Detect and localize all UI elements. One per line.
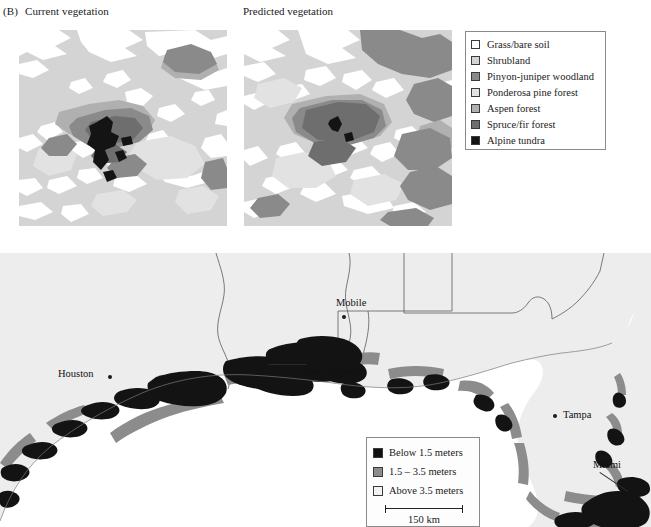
legend-swatch-icon xyxy=(471,120,480,129)
legend-item-alpine-tundra: Alpine tundra xyxy=(471,132,605,148)
city-dot-mobile xyxy=(342,315,346,319)
scale-bar-group: 150 km xyxy=(373,505,475,525)
legend-item-shrubland: Shrubland xyxy=(471,52,605,68)
legend-label: Below 1.5 meters xyxy=(389,447,463,458)
legend-item-1-5-to-3-5-meters: 1.5 – 3.5 meters xyxy=(373,462,479,481)
legend-swatch-icon xyxy=(471,56,480,65)
leader-line-new-orleans xyxy=(268,364,306,365)
gulf-coast-sea-level-map xyxy=(0,253,651,527)
legend-label: 1.5 – 3.5 meters xyxy=(389,466,456,477)
legend-item-above-3-5-meters: Above 3.5 meters xyxy=(373,481,479,500)
legend-swatch-icon xyxy=(373,486,383,496)
vegetation-legend: Grass/bare soil Shrubland Pinyon-juniper… xyxy=(465,31,606,150)
legend-item-pinyon-juniper-woodland: Pinyon-juniper woodland xyxy=(471,68,605,84)
city-dot-tampa xyxy=(553,414,557,418)
city-label-miami: Miami xyxy=(593,459,621,470)
scale-bar-icon xyxy=(385,505,463,513)
predicted-vegetation-map xyxy=(244,30,452,226)
legend-swatch-icon xyxy=(471,88,480,97)
legend-swatch-icon xyxy=(471,72,480,81)
legend-swatch-icon xyxy=(471,40,480,49)
legend-item-aspen-forest: Aspen forest xyxy=(471,100,605,116)
legend-label: Ponderosa pine forest xyxy=(487,87,578,98)
legend-item-grass-bare-soil: Grass/bare soil xyxy=(471,36,605,52)
gulf-coast-vector xyxy=(0,253,651,527)
scale-bar-label: 150 km xyxy=(373,514,475,525)
city-label-new-orleans: New Orleans xyxy=(305,366,360,377)
panel-b-tag: (B) xyxy=(3,5,18,17)
city-label-houston: Houston xyxy=(58,368,94,379)
legend-label: Above 3.5 meters xyxy=(389,485,463,496)
sea-level-legend: Below 1.5 meters 1.5 – 3.5 meters Above … xyxy=(366,437,480,527)
legend-item-ponderosa-pine-forest: Ponderosa pine forest xyxy=(471,84,605,100)
city-label-mobile: Mobile xyxy=(336,297,366,308)
legend-label: Pinyon-juniper woodland xyxy=(487,71,594,82)
predicted-vegetation-raster xyxy=(244,30,452,226)
scale-bar-tick-start xyxy=(385,505,386,513)
legend-label: Shrubland xyxy=(487,55,530,66)
legend-label: Spruce/fir forest xyxy=(487,119,556,130)
legend-swatch-icon xyxy=(373,448,383,458)
current-vegetation-raster xyxy=(19,30,227,226)
scale-bar-tick-end xyxy=(462,505,463,513)
legend-item-spruce-fir-forest: Spruce/fir forest xyxy=(471,116,605,132)
current-vegetation-title: Current vegetation xyxy=(25,5,109,17)
legend-swatch-icon xyxy=(471,104,480,113)
current-vegetation-map xyxy=(19,30,227,226)
legend-label: Aspen forest xyxy=(487,103,540,114)
legend-label: Alpine tundra xyxy=(487,135,545,146)
legend-swatch-icon xyxy=(373,467,383,477)
legend-swatch-icon xyxy=(471,136,480,145)
legend-item-below-1-5-meters: Below 1.5 meters xyxy=(373,443,479,462)
panel-b-caption: (B)Current vegetation xyxy=(3,5,109,17)
city-label-tampa: Tampa xyxy=(563,409,591,420)
scale-bar-line xyxy=(385,508,463,509)
legend-label: Grass/bare soil xyxy=(487,39,550,50)
predicted-vegetation-title: Predicted vegetation xyxy=(243,5,333,17)
city-dot-houston xyxy=(108,375,112,379)
